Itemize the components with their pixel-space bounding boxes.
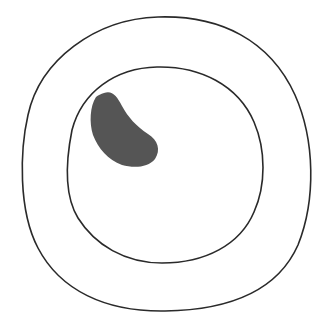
dark-blob bbox=[91, 92, 158, 167]
concentric-rings-diagram bbox=[0, 0, 328, 331]
outer-ring bbox=[22, 17, 311, 311]
